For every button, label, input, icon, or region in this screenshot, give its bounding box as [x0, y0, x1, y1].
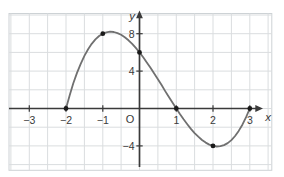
graph-canvas: −3−2−112384−4 y x O — [0, 0, 284, 177]
data-point — [211, 144, 216, 149]
data-point — [247, 106, 252, 111]
data-point — [64, 106, 69, 111]
x-tick-label: 2 — [210, 114, 216, 126]
plot-background — [9, 14, 272, 171]
x-tick-label: −3 — [23, 114, 35, 126]
origin-label: O — [126, 113, 135, 125]
y-tick-label: 8 — [129, 28, 135, 40]
x-tick-label: −2 — [60, 114, 72, 126]
graph-figure: −3−2−112384−4 y x O — [0, 0, 284, 177]
data-point — [100, 31, 105, 36]
y-tick-label: −4 — [123, 140, 135, 152]
x-tick-label: −1 — [97, 114, 109, 126]
x-tick-label: 1 — [173, 114, 179, 126]
data-point — [174, 106, 179, 111]
y-tick-label: 4 — [129, 65, 135, 77]
x-tick-label: 3 — [247, 114, 253, 126]
data-point — [137, 50, 142, 55]
